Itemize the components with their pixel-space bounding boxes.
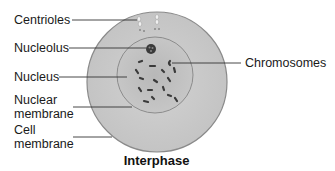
label-cell-membrane-line2: membrane — [14, 138, 74, 151]
label-nucleus: Nucleus — [14, 71, 59, 84]
diagram-title: Interphase — [0, 153, 313, 168]
label-centrioles: Centrioles — [14, 14, 70, 27]
label-cell-membrane-line1: Cell — [14, 124, 36, 137]
nucleolus-shape — [146, 44, 156, 54]
label-nuclear-membrane-line1: Nuclear — [14, 94, 57, 107]
label-nuclear-membrane-line2: membrane — [14, 108, 74, 121]
label-chromosomes: Chromosomes — [245, 57, 326, 70]
label-nucleolus: Nucleolus — [14, 42, 69, 55]
